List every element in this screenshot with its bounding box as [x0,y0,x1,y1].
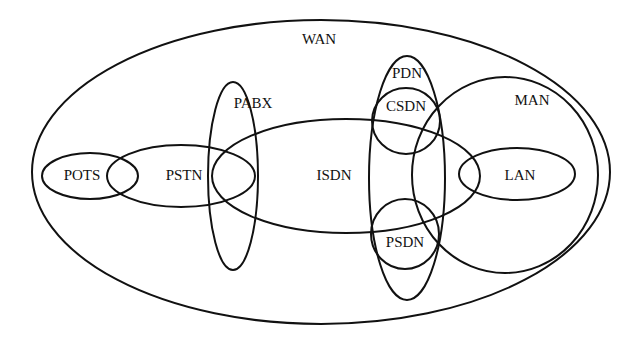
network-venn-diagram: WAN POTS PSTN PABX ISDN PDN CSDN PSDN MA… [0,0,630,346]
pots-label: POTS [64,167,101,183]
psdn-label: PSDN [386,234,425,250]
pdn-ellipse [369,56,445,300]
man-label: MAN [514,92,549,108]
pdn-label: PDN [392,65,422,81]
csdn-label: CSDN [386,98,426,114]
network-labels: WAN POTS PSTN PABX ISDN PDN CSDN PSDN MA… [64,31,550,250]
isdn-label: ISDN [316,167,351,183]
pabx-label: PABX [234,95,273,111]
wan-label: WAN [302,31,336,47]
lan-label: LAN [505,167,536,183]
pstn-label: PSTN [166,167,203,183]
